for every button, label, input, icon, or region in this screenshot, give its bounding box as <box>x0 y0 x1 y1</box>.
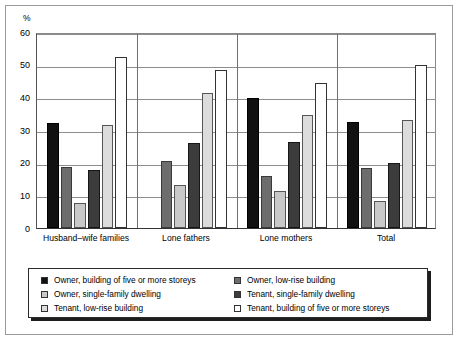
legend-label: Owner, building of five or more storeys <box>54 276 196 285</box>
bar <box>88 170 100 228</box>
legend-swatch-icon <box>234 277 241 284</box>
x-axis-category-label: Lone fathers <box>136 233 236 243</box>
bar <box>174 185 186 228</box>
y-axis-tick-label: 0 <box>0 225 30 234</box>
legend-label: Tenant, building of five or more storeys <box>247 304 390 313</box>
x-axis-category-label: Lone mothers <box>236 233 336 243</box>
bar <box>374 201 386 228</box>
legend-item: Owner, single-family dwelling <box>41 288 196 301</box>
bar <box>247 98 259 228</box>
bar <box>415 65 427 228</box>
y-axis-unit-label: % <box>23 13 31 23</box>
chart-figure: % 0102030405060 Husband–wife familiesLon… <box>0 0 459 341</box>
bars-layer <box>37 34 435 228</box>
bar <box>274 191 286 228</box>
bar <box>61 167 73 228</box>
legend-column-right: Owner, low-rise buildingTenant, single-f… <box>234 274 390 316</box>
legend-label: Tenant, low-rise building <box>54 304 143 313</box>
legend-item: Tenant, single-family dwelling <box>234 288 390 301</box>
legend-swatch-icon <box>41 305 48 312</box>
bar <box>188 143 200 228</box>
bar <box>261 176 273 228</box>
legend-item: Tenant, low-rise building <box>41 302 196 315</box>
legend-label: Tenant, single-family dwelling <box>247 290 355 299</box>
bar <box>115 57 127 228</box>
bar <box>102 125 114 228</box>
chart-legend: Owner, building of five or more storeysO… <box>28 268 428 318</box>
legend-swatch-icon <box>234 305 241 312</box>
y-axis-tick-label: 60 <box>0 29 30 38</box>
y-axis-tick-label: 10 <box>0 192 30 201</box>
bar <box>161 161 173 228</box>
plot-area <box>36 33 436 229</box>
legend-item: Tenant, building of five or more storeys <box>234 302 390 315</box>
legend-column-left: Owner, building of five or more storeysO… <box>41 274 196 316</box>
bar <box>402 120 414 228</box>
y-axis-tick-label: 30 <box>0 127 30 136</box>
bar <box>388 163 400 228</box>
legend-item: Owner, building of five or more storeys <box>41 274 196 287</box>
y-axis-tick-label: 40 <box>0 94 30 103</box>
bar <box>74 203 86 228</box>
legend-label: Owner, low-rise building <box>247 276 335 285</box>
legend-label: Owner, single-family dwelling <box>54 290 161 299</box>
bar <box>215 70 227 228</box>
x-axis-category-label: Total <box>336 233 436 243</box>
bar <box>302 115 314 228</box>
legend-item: Owner, low-rise building <box>234 274 390 287</box>
y-axis-tick-label: 20 <box>0 159 30 168</box>
x-axis-category-label: Husband–wife families <box>36 233 136 243</box>
bar <box>202 93 214 228</box>
legend-swatch-icon <box>41 291 48 298</box>
bar <box>315 83 327 228</box>
bar <box>361 168 373 228</box>
bar <box>347 122 359 228</box>
legend-swatch-icon <box>41 277 48 284</box>
bar <box>288 142 300 228</box>
y-axis-tick-label: 50 <box>0 61 30 70</box>
bar <box>47 123 59 229</box>
legend-swatch-icon <box>234 291 241 298</box>
